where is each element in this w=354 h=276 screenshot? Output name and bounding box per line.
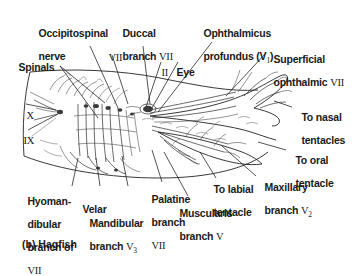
nerve-ii-text: II xyxy=(161,67,168,78)
mandibular-line1: Mandibular xyxy=(89,217,143,229)
label-maxillary-branch: Maxillary branch V2 xyxy=(259,170,312,220)
figure-caption: (b) Hagfish xyxy=(22,238,77,250)
label-nerve-vii-top: VII xyxy=(103,40,122,63)
hyomandibular-roman: VII xyxy=(27,265,41,276)
palatine-line2: branch xyxy=(151,216,185,228)
label-ophthalmicus-profundus: Ophthalmicus profundus (V1) xyxy=(198,16,273,66)
spinals-text: Spinals xyxy=(18,61,54,73)
muscularis-roman: V xyxy=(216,231,223,242)
palatine-roman: VII xyxy=(151,240,165,251)
label-eye: Eye xyxy=(171,55,195,78)
superficial-roman: VII xyxy=(330,77,344,88)
maxillary-line2: branch xyxy=(264,204,301,216)
label-palatine-branch: Palatine branch VII xyxy=(146,182,190,251)
occipitospinal-line1: Occipitospinal xyxy=(38,27,108,39)
label-spinals: Spinals xyxy=(13,50,54,73)
nerve-vii-top-text: VII xyxy=(108,52,122,63)
mandibular-sub: 3 xyxy=(133,246,137,255)
hyomandibular-line2: dibular xyxy=(27,218,61,230)
oral-line1: To oral xyxy=(295,154,328,166)
ophthalmicus-line2: profundus (V xyxy=(203,50,266,62)
label-nerve-x: X xyxy=(21,98,34,121)
nerve-x-text: X xyxy=(26,110,33,121)
superficial-line1: Superficial xyxy=(273,53,324,65)
vagus-glossopharyngeal-roots xyxy=(30,92,58,136)
eye-text: Eye xyxy=(176,66,194,78)
label-nerve-ii: II xyxy=(156,55,168,78)
dorsal-musculature xyxy=(50,73,128,104)
labial-line1: To labial xyxy=(213,183,253,195)
palatine-line1: Palatine xyxy=(151,193,190,205)
label-to-nasal-tentacles: To nasal tentacles xyxy=(296,100,345,146)
maxillary-line1: Maxillary xyxy=(264,181,307,193)
nasal-line1: To nasal xyxy=(301,111,341,123)
duccal-line1: Duccal xyxy=(122,27,155,39)
nerve-ix-text: IX xyxy=(23,135,34,146)
fine-nerve-detail xyxy=(40,117,258,157)
ophthalmicus-line1: Ophthalmicus xyxy=(203,27,271,39)
label-hyomandibular-branch: Hyoman- dibular branch of VII xyxy=(22,184,73,276)
mandibular-line2: branch xyxy=(89,240,126,252)
label-nerve-ix: IX xyxy=(18,123,34,146)
label-superficial-ophthalmic: Superficial ophthalmic VII xyxy=(268,42,344,88)
maxillary-sub: 2 xyxy=(308,210,312,219)
velar-text: Velar xyxy=(82,203,106,215)
ophthalmic-nerve-trunks xyxy=(150,92,238,122)
superficial-line2: ophthalmic xyxy=(273,76,330,88)
branchial-nerve-plexus xyxy=(57,102,140,162)
duccal-line2: branch xyxy=(122,50,159,62)
hyomandibular-line1: Hyoman- xyxy=(27,195,71,207)
label-velar: Velar xyxy=(77,192,107,215)
